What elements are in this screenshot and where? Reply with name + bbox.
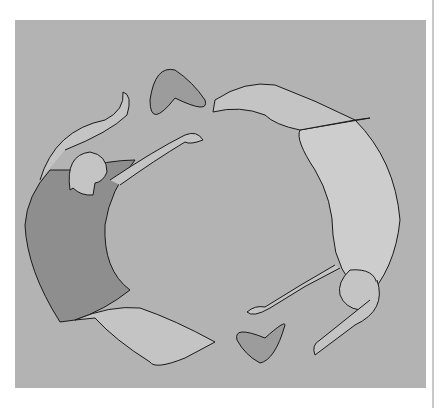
illustration-panel	[15, 20, 426, 388]
illustration	[15, 20, 426, 388]
right-edge-divider	[432, 0, 434, 408]
